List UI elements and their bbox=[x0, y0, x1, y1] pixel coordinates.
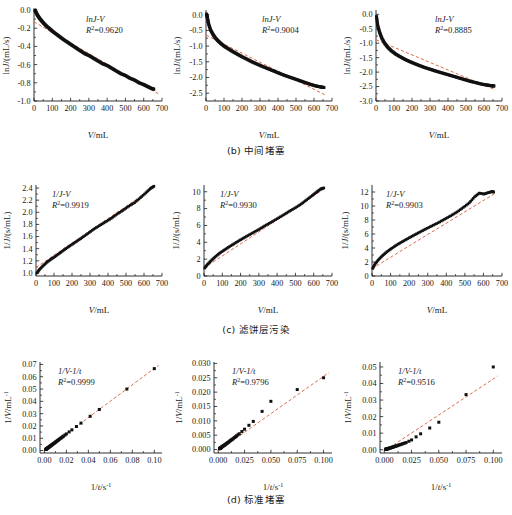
svg-text:0.0: 0.0 bbox=[362, 10, 372, 19]
svg-text:200: 200 bbox=[64, 104, 76, 113]
svg-text:2.0: 2.0 bbox=[22, 208, 32, 217]
svg-text:2: 2 bbox=[196, 255, 200, 264]
svg-text:0.005: 0.005 bbox=[192, 431, 210, 440]
x-axis-ticks: 0100200300400500600700 bbox=[204, 98, 338, 113]
svg-text:700: 700 bbox=[326, 279, 338, 288]
svg-text:0: 0 bbox=[370, 279, 374, 288]
svg-text:8: 8 bbox=[196, 204, 200, 213]
svg-text:-2.0: -2.0 bbox=[190, 73, 203, 82]
svg-text:0.02: 0.02 bbox=[59, 456, 73, 465]
svg-text:0.050: 0.050 bbox=[262, 456, 280, 465]
svg-text:4: 4 bbox=[364, 244, 368, 253]
y-axis-label: 1/V/mL-1 bbox=[3, 391, 13, 424]
y-axis-label: 1/J/(s/mL) bbox=[171, 211, 181, 249]
annotation-model: 1/J-V bbox=[52, 189, 72, 199]
annotation-r2: R2=0.8885 bbox=[434, 25, 472, 35]
plot-svg: 0.0000.0250.0500.0750.1000.0000.0050.010… bbox=[170, 352, 340, 493]
svg-text:700: 700 bbox=[496, 279, 508, 288]
svg-text:0.02: 0.02 bbox=[22, 422, 36, 431]
x-axis-label: V/mL bbox=[429, 130, 450, 140]
svg-text:-0.5: -0.5 bbox=[190, 26, 203, 35]
svg-text:0.07: 0.07 bbox=[22, 360, 36, 369]
svg-text:-1.0: -1.0 bbox=[18, 97, 31, 106]
plot-svg: 01002003004005006007001.01.21.41.61.82.0… bbox=[0, 175, 170, 316]
figure-root: 01002003004005006007000.0-0.2-0.4-0.6-0.… bbox=[0, 0, 512, 515]
svg-text:-3.0: -3.0 bbox=[360, 97, 373, 106]
svg-text:200: 200 bbox=[234, 279, 246, 288]
svg-text:6: 6 bbox=[196, 221, 200, 230]
svg-text:0.06: 0.06 bbox=[103, 456, 117, 465]
y-axis-label: lnJ/(mL/s) bbox=[172, 36, 182, 74]
annotation-model: lnJ-V bbox=[435, 14, 455, 24]
annotation-model: 1/V-1/t bbox=[232, 366, 256, 376]
svg-text:400: 400 bbox=[101, 104, 113, 113]
annotation-r2: R2=0.9903 bbox=[385, 200, 423, 210]
svg-text:200: 200 bbox=[403, 279, 415, 288]
svg-text:-1.0: -1.0 bbox=[190, 42, 203, 51]
x-axis-label: 1/t/s-1 bbox=[431, 482, 452, 492]
svg-text:300: 300 bbox=[84, 279, 96, 288]
svg-text:0.06: 0.06 bbox=[22, 373, 36, 382]
svg-text:100: 100 bbox=[384, 279, 396, 288]
row-caption-c: (c) 滤饼层污染 bbox=[0, 322, 512, 336]
svg-text:0.100: 0.100 bbox=[314, 456, 332, 465]
svg-text:0.030: 0.030 bbox=[192, 359, 210, 368]
panel-c3: 01002003004005006007000246810121/J-VR2=0… bbox=[340, 175, 510, 315]
annotation-r2: R2=0.9516 bbox=[397, 377, 435, 387]
svg-text:-1.5: -1.5 bbox=[360, 54, 373, 63]
svg-text:2: 2 bbox=[364, 258, 368, 267]
svg-text:0.04: 0.04 bbox=[22, 397, 36, 406]
svg-text:0.02: 0.02 bbox=[362, 413, 376, 422]
plot-svg: 01002003004005006007000.0-0.2-0.4-0.6-0.… bbox=[0, 0, 170, 141]
svg-text:2.4: 2.4 bbox=[22, 184, 32, 193]
svg-text:1.2: 1.2 bbox=[22, 257, 32, 266]
annotation-r2: R2=0.9919 bbox=[51, 200, 89, 210]
svg-text:500: 500 bbox=[459, 279, 471, 288]
x-axis-ticks: 0100200300400500600700 bbox=[370, 273, 508, 288]
panel-annotation: 1/V-1/tR2=0.9796 bbox=[231, 366, 269, 387]
svg-text:12: 12 bbox=[360, 188, 368, 197]
svg-text:0.100: 0.100 bbox=[484, 456, 502, 465]
x-axis-label: 1/t/s-1 bbox=[91, 482, 112, 492]
y-axis-label: lnJ/(mL/s) bbox=[342, 36, 352, 74]
svg-text:-2.0: -2.0 bbox=[360, 68, 373, 77]
x-axis-label: 1/t/s-1 bbox=[263, 482, 284, 492]
svg-text:0: 0 bbox=[364, 272, 368, 281]
panel-d3: 0.0000.0250.0500.0750.1000.000.010.020.0… bbox=[340, 352, 510, 492]
svg-text:400: 400 bbox=[271, 279, 283, 288]
svg-text:700: 700 bbox=[326, 104, 338, 113]
svg-text:-1.5: -1.5 bbox=[190, 58, 203, 67]
annotation-model: 1/V-1/t bbox=[58, 366, 82, 376]
plot-svg: 01002003004005006007000.0-0.5-1.0-1.5-2.… bbox=[170, 0, 340, 141]
svg-text:500: 500 bbox=[460, 104, 472, 113]
panel-annotation: lnJ-VR2=0.9004 bbox=[261, 14, 299, 35]
y-axis-label: 1/V/mL-1 bbox=[174, 391, 184, 424]
annotation-r2: R2=0.9620 bbox=[85, 25, 123, 35]
panel-c1: 01002003004005006007001.01.21.41.61.82.0… bbox=[0, 175, 170, 315]
svg-text:0.075: 0.075 bbox=[288, 456, 306, 465]
svg-text:8: 8 bbox=[364, 216, 368, 225]
annotation-r2: R2=0.9930 bbox=[219, 200, 257, 210]
svg-text:0.0: 0.0 bbox=[192, 11, 202, 20]
svg-text:0.05: 0.05 bbox=[362, 363, 376, 372]
svg-text:-0.6: -0.6 bbox=[18, 61, 31, 70]
svg-text:200: 200 bbox=[406, 104, 418, 113]
svg-text:0.03: 0.03 bbox=[22, 410, 36, 419]
svg-text:400: 400 bbox=[272, 104, 284, 113]
x-axis-label: V/mL bbox=[89, 305, 110, 315]
plot-svg: 010020030040050060070002468101/J-VR2=0.9… bbox=[170, 175, 340, 316]
svg-text:600: 600 bbox=[138, 104, 150, 113]
y-axis-ticks: 1.01.21.41.61.82.02.22.4 bbox=[22, 184, 39, 278]
svg-text:300: 300 bbox=[253, 279, 265, 288]
x-axis-ticks: 0100200300400500600700 bbox=[374, 98, 508, 113]
svg-text:1.6: 1.6 bbox=[22, 232, 32, 241]
panel-annotation: lnJ-VR2=0.8885 bbox=[434, 14, 472, 35]
svg-text:-1.0: -1.0 bbox=[360, 39, 373, 48]
svg-text:-0.5: -0.5 bbox=[360, 25, 373, 34]
svg-text:700: 700 bbox=[156, 279, 168, 288]
svg-text:400: 400 bbox=[442, 104, 454, 113]
panel-b3: 01002003004005006007000.0-0.5-1.0-1.5-2.… bbox=[340, 0, 510, 140]
y-axis-label: 1/V/mL-1 bbox=[343, 391, 353, 424]
svg-text:1.0: 1.0 bbox=[22, 269, 32, 278]
svg-text:0.01: 0.01 bbox=[362, 429, 376, 438]
